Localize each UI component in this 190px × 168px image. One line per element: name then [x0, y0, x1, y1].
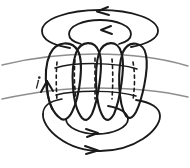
label-i-dot: [39, 77, 40, 78]
label-i-group: [37, 77, 41, 88]
bottom-loops-group: [43, 99, 160, 151]
arrow-top-inner-left: [101, 26, 112, 34]
toroidal-loop-top-outer: [42, 10, 158, 48]
bottom-outer-left-tail: [43, 99, 62, 114]
top-loops-group: [42, 10, 158, 48]
toroidal-loop-bottom-outer: [43, 100, 160, 151]
toroidal-loop-bottom-inner: [66, 106, 128, 134]
torus-field-diagram: [0, 0, 190, 168]
figure-canvas: Torus with oriented toroidal and poloida…: [0, 0, 190, 168]
label-i-stroke: [37, 81, 39, 89]
toroidal-loop-top-inner: [69, 20, 131, 44]
